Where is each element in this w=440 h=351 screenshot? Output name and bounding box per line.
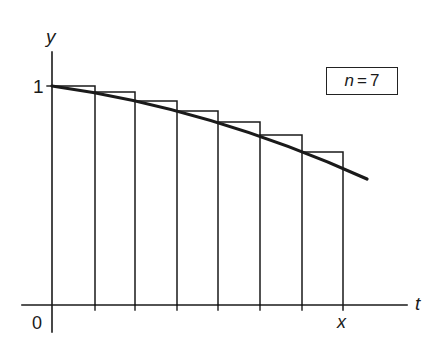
t-axis-label: t [415,294,420,313]
function-curve [52,86,367,179]
rectangle-4 [177,111,218,305]
rectangle-2 [95,92,135,305]
origin-label: 0 [32,314,42,332]
rectangle-7 [302,152,343,310]
rectangle-1 [52,86,95,305]
n-variable: n [345,71,354,91]
riemann-sum-diagram [0,0,440,351]
x-end-label: x [337,313,346,331]
equals-sign: = [357,71,367,91]
y-tick-label-1: 1 [33,77,44,96]
y-axis-label: y [46,27,56,46]
rectangle-6 [260,135,302,305]
rectangle-3 [135,101,177,305]
n-value: 7 [370,71,379,91]
approximating-rectangles [52,86,343,310]
n-value-box: n = 7 [326,67,398,95]
rectangle-5 [218,122,260,305]
